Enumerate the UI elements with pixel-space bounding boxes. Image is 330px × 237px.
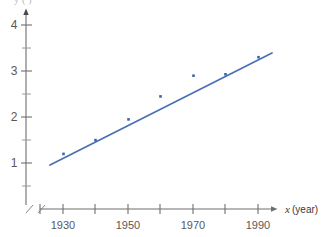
scatter-plot-svg: 4 3 2 1 1930 1950 1970 19: [0, 0, 330, 237]
chart-figure: y ( ) 4 3 2 1: [0, 0, 330, 237]
y-axis: 4 3 2 1: [11, 14, 32, 205]
y-tick-label-1: 1: [11, 156, 18, 170]
x-tick-label-1930: 1930: [51, 219, 75, 231]
data-point: [257, 56, 260, 59]
data-point: [224, 73, 227, 76]
break-slash-1: [26, 205, 33, 213]
data-point: [159, 95, 162, 98]
data-point: [192, 74, 195, 77]
x-axis: 1930 1950 1970 1990 x (year): [40, 203, 318, 231]
regression-line: [50, 53, 272, 165]
data-point: [127, 118, 130, 121]
data-point-group: [62, 56, 260, 155]
x-tick-label-1950: 1950: [116, 219, 140, 231]
x-tick-label-1970: 1970: [181, 219, 205, 231]
y-tick-label-3: 3: [11, 64, 18, 78]
x-axis-title-symbol: x: [284, 203, 290, 215]
regression-line-group: [50, 53, 272, 165]
y-tick-label-4: 4: [11, 18, 18, 32]
x-tick-label-1990: 1990: [246, 219, 270, 231]
data-point: [94, 139, 97, 142]
data-point: [62, 153, 65, 156]
x-axis-title-unit: (year): [292, 204, 318, 215]
y-tick-label-2: 2: [11, 110, 18, 124]
